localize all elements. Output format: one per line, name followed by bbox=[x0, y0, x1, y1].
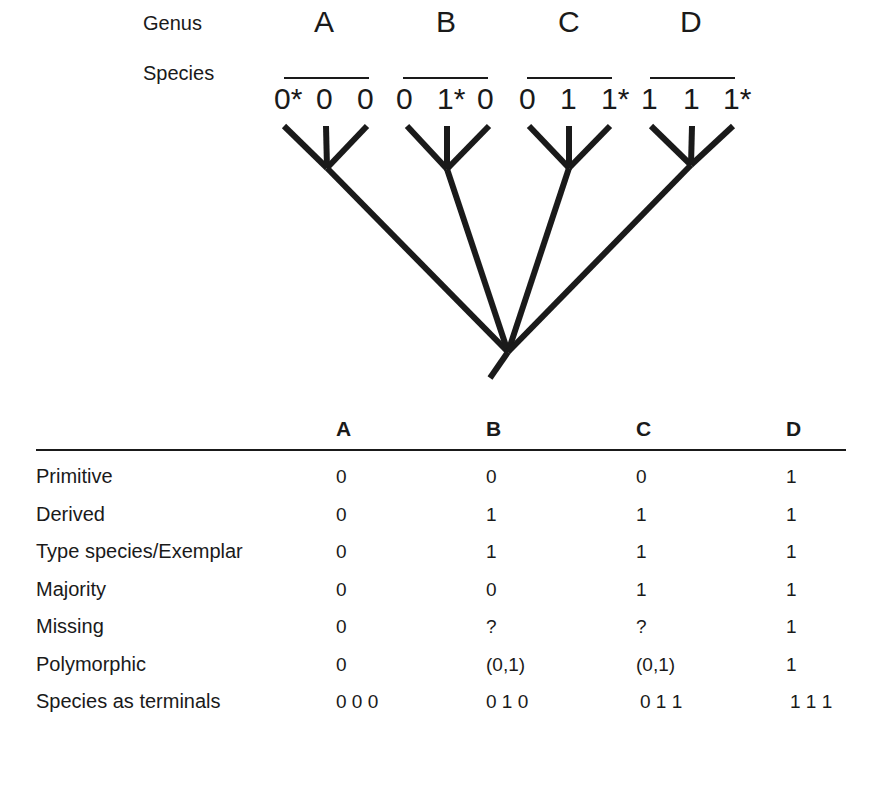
row-label: Primitive bbox=[36, 465, 113, 488]
row-label: Polymorphic bbox=[36, 653, 146, 676]
terminal-branch bbox=[529, 126, 569, 168]
column-header: C bbox=[636, 417, 651, 441]
table-cell: 1 bbox=[486, 541, 497, 563]
table-cell: 1 1 1 bbox=[790, 691, 832, 713]
genus-branch bbox=[327, 168, 508, 352]
row-label: Missing bbox=[36, 615, 104, 638]
table-cell: ? bbox=[636, 616, 647, 638]
terminal-branch bbox=[327, 126, 367, 168]
row-label: Species as terminals bbox=[36, 690, 221, 713]
genus-branch bbox=[508, 165, 691, 352]
table-cell: 1 bbox=[786, 616, 797, 638]
table-cell: 1 bbox=[786, 504, 797, 526]
phylogenetic-tree bbox=[0, 0, 884, 400]
column-header: A bbox=[336, 417, 351, 441]
table-header-rule bbox=[36, 449, 846, 451]
table-cell: 0 bbox=[336, 654, 347, 676]
column-header: B bbox=[486, 417, 501, 441]
table-cell: (0,1) bbox=[486, 654, 525, 676]
table-cell: 1 bbox=[636, 579, 647, 601]
table-cell: 1 bbox=[786, 541, 797, 563]
terminal-branch bbox=[691, 126, 692, 165]
table-cell: 0 bbox=[336, 616, 347, 638]
table-cell: 0 bbox=[336, 504, 347, 526]
root-stem bbox=[490, 352, 508, 378]
table-cell: (0,1) bbox=[636, 654, 675, 676]
terminal-branch bbox=[651, 126, 691, 165]
table-cell: ? bbox=[486, 616, 497, 638]
table-cell: 0 bbox=[336, 466, 347, 488]
column-header: D bbox=[786, 417, 801, 441]
row-label: Derived bbox=[36, 503, 105, 526]
table-cell: 1 bbox=[786, 466, 797, 488]
terminal-branch bbox=[326, 126, 327, 168]
table-cell: 0 bbox=[636, 466, 647, 488]
table-cell: 0 bbox=[486, 466, 497, 488]
table-cell: 0 0 0 bbox=[336, 691, 378, 713]
terminal-branch bbox=[407, 126, 447, 169]
table-cell: 0 bbox=[486, 579, 497, 601]
terminal-branch bbox=[691, 126, 733, 165]
terminal-branch bbox=[447, 126, 489, 169]
table-cell: 1 bbox=[786, 654, 797, 676]
terminal-branch bbox=[284, 126, 327, 168]
table-cell: 1 bbox=[786, 579, 797, 601]
table-cell: 0 1 0 bbox=[486, 691, 528, 713]
table-cell: 0 bbox=[336, 541, 347, 563]
table-cell: 0 bbox=[336, 579, 347, 601]
terminal-branch bbox=[569, 126, 610, 168]
table-cell: 1 bbox=[486, 504, 497, 526]
table-cell: 1 bbox=[636, 541, 647, 563]
table-cell: 0 1 1 bbox=[640, 691, 682, 713]
row-label: Type species/Exemplar bbox=[36, 540, 243, 563]
row-label: Majority bbox=[36, 578, 106, 601]
table-cell: 1 bbox=[636, 504, 647, 526]
